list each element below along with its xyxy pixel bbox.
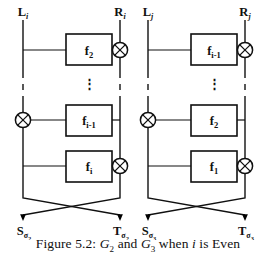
caption-g2: G2 (100, 236, 114, 251)
diagram-g2: f2 ⋮ fi-1 fi (15, 5, 129, 240)
g2-round1-box-sub: 2 (89, 50, 93, 60)
g2-input-left-sub: i (26, 12, 29, 21)
feistel-network-diagram: f2 ⋮ fi-1 fi (0, 0, 276, 240)
caption-tail: is Even (199, 236, 240, 251)
g2-input-right-label: Ri (114, 5, 126, 21)
g3-round3-box-sub: 2 (214, 120, 218, 130)
g2-output-right-arrow-icon (117, 214, 123, 221)
g3-round1-box-sub: i-1 (211, 50, 220, 60)
g3-ellipsis-icon: ⋮ (208, 76, 221, 91)
caption-g3: G3 (141, 236, 155, 251)
caption-and: and (118, 236, 138, 251)
caption-when: when (159, 236, 189, 251)
g2-output-left-arrow-icon (20, 214, 26, 221)
figure-caption: Figure 5.2: G2 and G3 when i is Even (0, 236, 276, 254)
g2-input-left-base: L (18, 5, 26, 19)
g3-output-left-arrow-icon (145, 214, 151, 221)
g3-input-left-label: Lj (143, 5, 154, 21)
g2-ellipsis-icon: ⋮ (83, 76, 96, 91)
g3-input-right-label: Rj (239, 5, 251, 21)
caption-prefix: Figure 5.2: (36, 236, 96, 251)
figure-container: f2 ⋮ fi-1 fi (0, 0, 276, 258)
g2-input-left-label: Li (18, 5, 29, 21)
diagram-g3: fi-1 ⋮ f2 f1 (140, 5, 254, 240)
g2-input-right-sub: i (123, 12, 126, 21)
g3-output-right-arrow-icon (242, 214, 248, 221)
caption-index-var: i (192, 236, 196, 251)
g2-round3-box-sub: i-1 (86, 120, 95, 130)
g3-input-left-base: L (143, 5, 151, 19)
g3-round4-box-sub: 1 (214, 166, 218, 176)
